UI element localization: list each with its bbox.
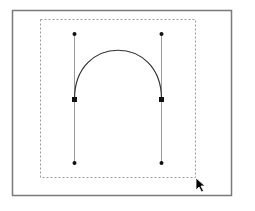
drawing-canvas[interactable]: [0, 0, 255, 211]
left-top-control[interactable]: [73, 32, 77, 36]
selection-bounding-box[interactable]: [41, 20, 196, 178]
left-anchor[interactable]: [72, 97, 77, 102]
right-top-control[interactable]: [160, 32, 164, 36]
bezier-curve[interactable]: [75, 50, 162, 99]
right-bottom-control[interactable]: [160, 161, 164, 165]
artboard-frame: [13, 11, 232, 196]
right-anchor[interactable]: [159, 97, 164, 102]
control-points[interactable]: [73, 32, 164, 165]
bezier-handles: [75, 34, 162, 163]
arrow-cursor-icon: [196, 178, 205, 192]
left-bottom-control[interactable]: [73, 161, 77, 165]
anchor-points[interactable]: [72, 97, 164, 102]
